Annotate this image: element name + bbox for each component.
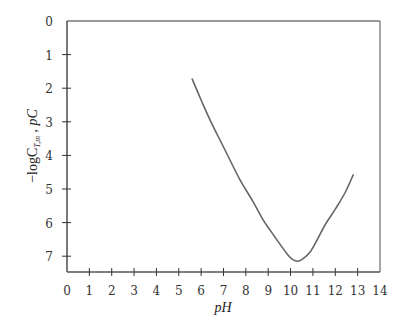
x-tick-label: 0 [63, 284, 71, 298]
y-tick-label: 3 [45, 116, 53, 130]
y-tick-label: 7 [45, 250, 53, 264]
x-tick-label: 4 [153, 284, 161, 298]
x-tick-label: 11 [305, 284, 320, 298]
chart: 01234567891011121314 01234567 pH −logCT,… [0, 0, 408, 335]
x-tick-label: 12 [328, 284, 343, 298]
y-label-suffix: , pC [25, 109, 40, 137]
x-tick-label: 7 [220, 284, 228, 298]
x-tick-label: 1 [86, 284, 94, 298]
y-tick-label: 6 [45, 217, 53, 231]
y-tick-label: 4 [45, 149, 53, 163]
x-tick-label: 10 [283, 284, 298, 298]
x-tick-label: 5 [175, 284, 183, 298]
y-label-subscript: T,m [33, 136, 42, 148]
x-tick-label: 9 [264, 284, 272, 298]
x-tick-label: 6 [197, 284, 205, 298]
x-tick-label: 2 [108, 284, 116, 298]
data-curve [192, 79, 353, 261]
x-tick-label: 13 [350, 284, 365, 298]
y-axis-label: −logCT,m , pC [25, 109, 42, 183]
x-axis-label: pH [213, 300, 232, 315]
y-label-prefix: −logC [25, 148, 40, 183]
y-tick-label: 5 [45, 183, 53, 197]
y-tick-label: 0 [45, 15, 53, 29]
x-tick-label: 14 [372, 284, 388, 298]
y-tick-label: 2 [45, 82, 53, 96]
x-tick-label: 3 [130, 284, 138, 298]
x-tick-label: 8 [242, 284, 250, 298]
y-tick-label: 1 [45, 49, 53, 63]
